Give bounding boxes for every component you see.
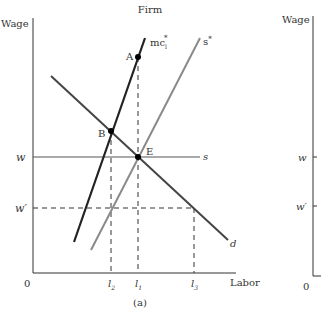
panel-title: Firm: [138, 4, 163, 15]
labor-market-diagram: Firm Wage A B E mcl* s* s d w w′ 0 l2 l1…: [0, 0, 321, 310]
d-label: d: [230, 238, 236, 249]
point-b-label: B: [98, 128, 105, 139]
origin-label: 0: [24, 278, 30, 289]
l2-label: l2: [108, 278, 115, 291]
l3-label: l3: [191, 278, 198, 291]
x-axis-label: Labor: [230, 277, 260, 288]
panel-b-w-prime-label: w′: [296, 201, 308, 212]
w-prime-label: w′: [15, 202, 27, 215]
panel-caption: (a): [133, 297, 147, 308]
point-a: [135, 54, 141, 60]
point-e-label: E: [146, 146, 153, 157]
w-label: w: [16, 151, 26, 164]
panel-b-w-label: w: [298, 152, 307, 163]
mc-curve: [74, 38, 145, 242]
y-axis-label: Wage: [1, 18, 29, 29]
point-e: [135, 154, 141, 160]
mc-label: mcl*: [150, 34, 168, 50]
l1-label: l1: [135, 278, 142, 291]
panel-b-y-axis-label: Wage: [282, 14, 310, 25]
s-star-label: s*: [203, 35, 212, 47]
point-a-label: A: [125, 51, 134, 62]
point-b: [108, 128, 114, 134]
s-label: s: [203, 151, 208, 162]
panel-b-origin-label: 0: [303, 281, 309, 292]
